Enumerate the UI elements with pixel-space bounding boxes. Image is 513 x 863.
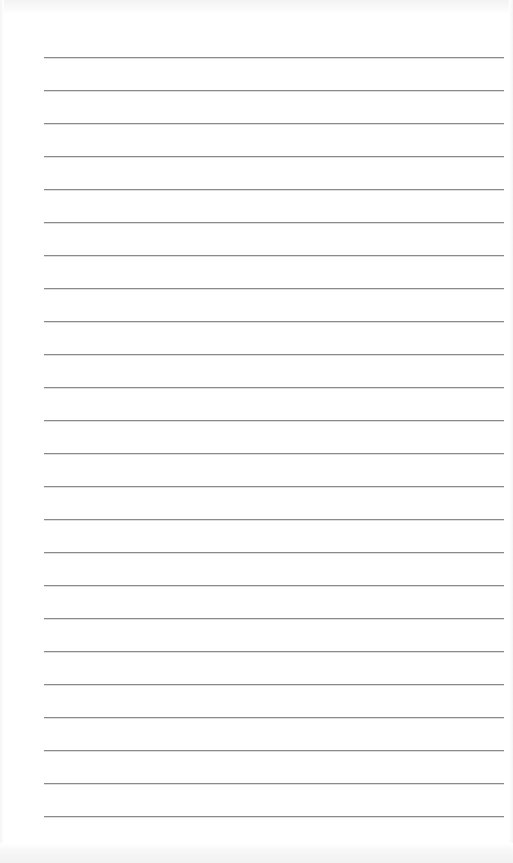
ruled-line <box>44 783 504 784</box>
ruled-line <box>44 486 504 487</box>
ruled-line <box>44 585 504 586</box>
ruled-line <box>44 420 504 421</box>
ruled-line <box>44 618 504 619</box>
ruled-line <box>44 255 504 256</box>
ruled-line <box>44 189 504 190</box>
ruled-line <box>44 684 504 685</box>
bottom-edge-shadow <box>0 843 513 863</box>
left-edge-shadow <box>0 0 4 863</box>
ruled-line <box>44 387 504 388</box>
ruled-line <box>44 222 504 223</box>
ruled-line <box>44 453 504 454</box>
ruled-line <box>44 717 504 718</box>
ruled-line <box>44 156 504 157</box>
ruled-paper-page <box>0 0 513 863</box>
ruled-line <box>44 816 504 817</box>
ruled-line <box>44 288 504 289</box>
right-edge-shadow <box>509 0 513 863</box>
ruled-line <box>44 750 504 751</box>
ruled-line <box>44 57 504 58</box>
ruled-line <box>44 651 504 652</box>
ruled-line <box>44 354 504 355</box>
ruled-line <box>44 123 504 124</box>
ruled-line <box>44 552 504 553</box>
ruled-line <box>44 519 504 520</box>
ruled-line <box>44 90 504 91</box>
top-edge-shadow <box>0 0 513 14</box>
ruled-line <box>44 321 504 322</box>
